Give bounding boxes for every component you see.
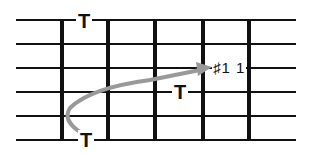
tap-label-middle: T	[172, 82, 188, 102]
slide-arrow	[68, 62, 212, 132]
note-label-sharp-11: ♯1 1	[212, 60, 246, 75]
fretboard-diagram	[0, 0, 312, 156]
tap-label-bottom: T	[78, 130, 94, 150]
tap-label-top: T	[76, 11, 92, 31]
